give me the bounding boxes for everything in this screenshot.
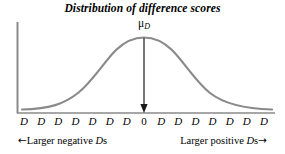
- tick-label: D: [69, 113, 81, 129]
- tick-label: D: [172, 113, 184, 129]
- caption-positive-direction: Larger positive Ds→: [180, 131, 267, 150]
- caption-negative-suffix: s: [103, 135, 107, 146]
- tick-label: D: [207, 113, 219, 129]
- tick-label: D: [52, 113, 64, 129]
- tick-label: D: [18, 113, 30, 129]
- caption-negative-direction: ←Larger negative Ds: [18, 131, 107, 150]
- caption-negative-variable: D: [95, 135, 103, 146]
- tick-label: D: [87, 113, 99, 129]
- tick-label: D: [155, 113, 167, 129]
- axis-direction-captions: ←Larger negative Ds Larger positive Ds→: [0, 131, 285, 149]
- caption-positive-text: Larger positive: [180, 135, 246, 146]
- tick-label-zero: 0: [138, 113, 150, 129]
- left-arrow-icon: ←: [18, 134, 27, 146]
- tick-label: D: [35, 113, 47, 129]
- right-arrow-icon: →: [258, 134, 267, 146]
- x-axis-tick-labels: D D D D D D D 0 D D D D D D D: [15, 113, 273, 129]
- caption-negative-text: Larger negative: [27, 135, 96, 146]
- mean-drop-arrowhead: [140, 104, 147, 113]
- normal-distribution-curve: [22, 38, 272, 110]
- distribution-figure: Distribution of difference scores μD D D…: [0, 0, 285, 154]
- tick-label: D: [224, 113, 236, 129]
- caption-positive-variable: D: [247, 135, 255, 146]
- tick-label: D: [241, 113, 253, 129]
- tick-label: D: [189, 113, 201, 129]
- tick-label: D: [104, 113, 116, 129]
- tick-label: D: [121, 113, 133, 129]
- tick-label: D: [258, 113, 270, 129]
